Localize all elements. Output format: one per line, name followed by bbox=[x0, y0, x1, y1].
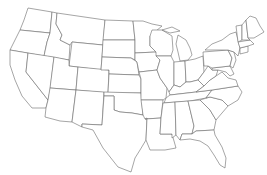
us-outline-map bbox=[0, 0, 267, 175]
state-maine bbox=[246, 16, 264, 38]
states bbox=[10, 8, 264, 172]
state-massachusetts bbox=[238, 40, 254, 48]
state-arkansas bbox=[141, 100, 163, 119]
state-indiana bbox=[174, 61, 186, 87]
state-montana bbox=[56, 13, 105, 45]
state-pennsylvania bbox=[203, 50, 232, 68]
state-wyoming bbox=[69, 42, 103, 70]
state-mississippi bbox=[160, 102, 176, 138]
state-colorado bbox=[76, 67, 109, 93]
state-florida bbox=[180, 130, 226, 168]
state-arizona bbox=[45, 88, 76, 122]
state-kansas bbox=[108, 74, 141, 93]
state-north-dakota bbox=[103, 20, 135, 40]
state-new-mexico bbox=[72, 90, 104, 127]
state-washington bbox=[20, 8, 52, 33]
